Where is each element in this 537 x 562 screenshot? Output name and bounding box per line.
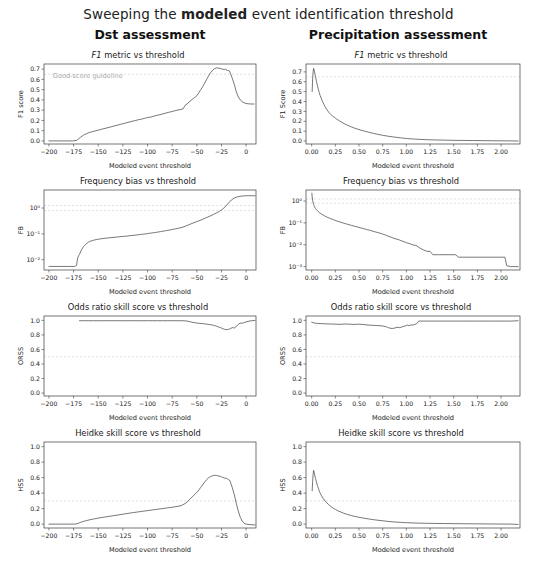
axes-frame bbox=[306, 316, 520, 396]
y-tick-label: 10⁰ bbox=[292, 197, 303, 204]
x-tick-label: −50 bbox=[190, 148, 203, 155]
x-axis-label: Modeled event threshold bbox=[109, 288, 191, 296]
y-tick-label: 10⁻³ bbox=[288, 263, 302, 270]
x-axis-label: Modeled event threshold bbox=[372, 288, 454, 296]
y-tick-label: 0.4 bbox=[30, 489, 40, 496]
y-tick-label: 0.7 bbox=[30, 65, 40, 72]
x-tick-label: 1.75 bbox=[470, 532, 484, 539]
y-tick-label: 0.2 bbox=[292, 375, 302, 382]
y-tick-label: 0.7 bbox=[292, 68, 302, 75]
x-tick-label: 0.00 bbox=[305, 400, 319, 407]
y-tick-label: 0.2 bbox=[292, 117, 302, 124]
y-axis-label: F1 Score bbox=[279, 90, 287, 119]
x-tick-label: −100 bbox=[139, 400, 156, 407]
column-header-precipitation: Precipitation assessment bbox=[268, 27, 528, 42]
panel-dst-orss: Odds ratio skill score vs threshold−200−… bbox=[14, 302, 262, 422]
x-tick-label: 1.50 bbox=[447, 148, 461, 155]
panel-title: Odds ratio skill score vs threshold bbox=[276, 302, 526, 312]
y-tick-label: 0.4 bbox=[30, 96, 40, 103]
x-tick-label: 0.25 bbox=[328, 532, 342, 539]
x-tick-label: 0.50 bbox=[352, 274, 366, 281]
x-tick-label: −75 bbox=[166, 532, 179, 539]
y-tick-label: 0.3 bbox=[30, 106, 40, 113]
x-axis-label: Modeled event threshold bbox=[372, 546, 454, 554]
x-tick-label: 1.25 bbox=[423, 148, 437, 155]
y-tick-label: 0.4 bbox=[30, 360, 40, 367]
y-tick-label: 0.2 bbox=[30, 117, 40, 124]
y-tick-label: 0.1 bbox=[30, 127, 40, 134]
plot-area: 0.000.250.500.751.001.251.501.752.000.00… bbox=[276, 302, 526, 422]
x-tick-label: 0 bbox=[244, 274, 248, 281]
x-tick-label: 0 bbox=[244, 400, 248, 407]
suptitle-post: event identification threshold bbox=[247, 6, 453, 22]
x-tick-label: −75 bbox=[166, 148, 179, 155]
x-tick-label: −100 bbox=[139, 148, 156, 155]
x-tick-label: −75 bbox=[166, 274, 179, 281]
y-tick-label: 0.4 bbox=[292, 489, 302, 496]
y-tick-label: 0.0 bbox=[292, 520, 302, 527]
x-tick-label: −50 bbox=[190, 532, 203, 539]
y-axis-label: HSS bbox=[17, 478, 25, 491]
x-tick-label: 1.50 bbox=[447, 274, 461, 281]
panel-precip-fb: Frequency bias vs threshold0.000.250.500… bbox=[276, 176, 526, 296]
x-tick-label: 2.00 bbox=[494, 274, 508, 281]
x-tick-label: 1.25 bbox=[423, 400, 437, 407]
y-tick-label: 0.4 bbox=[292, 360, 302, 367]
x-tick-label: −150 bbox=[90, 400, 107, 407]
plot-area: 0.000.250.500.751.001.251.501.752.000.00… bbox=[276, 50, 526, 170]
axes-frame bbox=[306, 190, 520, 270]
x-tick-label: −25 bbox=[215, 400, 228, 407]
axes-frame bbox=[44, 442, 256, 528]
x-tick-label: 0.00 bbox=[305, 274, 319, 281]
x-axis-label: Modeled event threshold bbox=[372, 162, 454, 170]
figure-suptitle: Sweeping the modeled event identificatio… bbox=[0, 6, 537, 22]
axes-frame bbox=[44, 190, 256, 270]
y-tick-label: 10⁻² bbox=[288, 241, 302, 248]
x-tick-label: −175 bbox=[65, 400, 82, 407]
data-curve bbox=[312, 470, 518, 524]
panel-title: Frequency bias vs threshold bbox=[14, 176, 262, 186]
x-axis-label: Modeled event threshold bbox=[109, 414, 191, 422]
x-tick-label: 0 bbox=[244, 148, 248, 155]
panel-precip-hss: Heidke skill score vs threshold0.000.250… bbox=[276, 428, 526, 554]
x-tick-label: −50 bbox=[190, 400, 203, 407]
y-axis-label: ORSS bbox=[17, 347, 25, 365]
y-axis-label: ORSS bbox=[279, 347, 287, 365]
x-tick-label: 1.75 bbox=[470, 400, 484, 407]
x-tick-label: −200 bbox=[40, 148, 57, 155]
data-curve bbox=[312, 68, 518, 141]
x-axis-label: Modeled event threshold bbox=[109, 546, 191, 554]
x-tick-label: −25 bbox=[215, 148, 228, 155]
y-tick-label: 0.6 bbox=[30, 76, 40, 83]
y-tick-label: 0.5 bbox=[292, 88, 302, 95]
x-tick-label: −100 bbox=[139, 274, 156, 281]
y-tick-label: 10⁰ bbox=[30, 204, 41, 211]
x-tick-label: −125 bbox=[114, 274, 131, 281]
plot-area: 0.000.250.500.751.001.251.501.752.0010⁰1… bbox=[276, 176, 526, 296]
x-tick-label: 0.50 bbox=[352, 532, 366, 539]
plot-area: −200−175−150−125−100−75−50−2500.00.20.40… bbox=[14, 428, 262, 554]
x-tick-label: −175 bbox=[65, 532, 82, 539]
axes-frame bbox=[44, 316, 256, 396]
y-tick-label: 0.3 bbox=[292, 108, 302, 115]
panel-title: F1 metric vs threshold bbox=[14, 50, 262, 60]
y-tick-label: 10⁻² bbox=[26, 256, 40, 263]
data-curve bbox=[49, 196, 255, 267]
panel-dst-f1: F1 metric vs threshold−200−175−150−125−1… bbox=[14, 50, 262, 170]
y-tick-label: 0.6 bbox=[30, 474, 40, 481]
x-tick-label: 0.50 bbox=[352, 148, 366, 155]
y-tick-label: 10⁻¹ bbox=[26, 230, 40, 237]
y-tick-label: 0.0 bbox=[30, 389, 40, 396]
panel-title: Heidke skill score vs threshold bbox=[276, 428, 526, 438]
y-tick-label: 0.6 bbox=[292, 78, 302, 85]
x-tick-label: 0.25 bbox=[328, 400, 342, 407]
figure-canvas: Sweeping the modeled event identificatio… bbox=[0, 0, 537, 562]
x-tick-label: 0.75 bbox=[376, 532, 390, 539]
x-axis-label: Modeled event threshold bbox=[372, 414, 454, 422]
x-tick-label: 1.00 bbox=[399, 148, 413, 155]
y-tick-label: 0.0 bbox=[292, 137, 302, 144]
y-tick-label: 0.0 bbox=[30, 137, 40, 144]
x-tick-label: 0.75 bbox=[376, 400, 390, 407]
x-tick-label: −75 bbox=[166, 400, 179, 407]
y-tick-label: 0.6 bbox=[292, 474, 302, 481]
